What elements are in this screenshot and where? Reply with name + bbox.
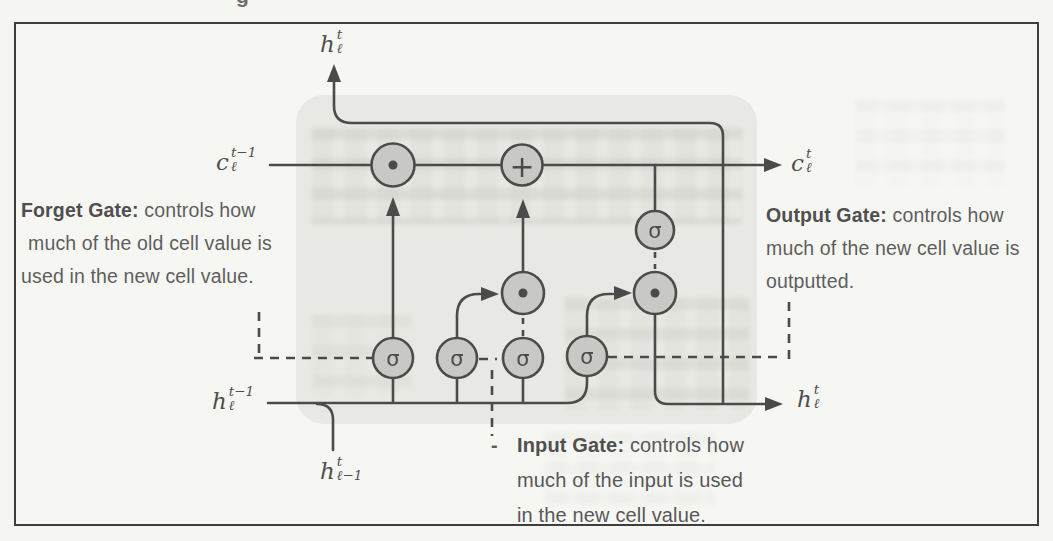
- math-sub: ℓ: [337, 41, 343, 55]
- scanned-page: g: [0, 0, 1053, 541]
- annotation-line: much of the old cell value is: [21, 227, 272, 260]
- annotation-text: controls how: [139, 199, 256, 221]
- math-sub: ℓ: [229, 398, 254, 412]
- math-base: c: [216, 149, 229, 175]
- math-sup: t−1: [229, 384, 254, 398]
- math-sup: t: [806, 146, 812, 160]
- annotation-line: Forget Gate: controls how: [21, 194, 272, 227]
- math-sub: ℓ: [806, 160, 812, 174]
- math-scripts: t ℓ: [814, 382, 820, 410]
- math-sup: t−1: [231, 145, 256, 159]
- annotation-line: Output Gate: controls how: [766, 199, 1020, 232]
- math-scripts: t ℓ−1: [337, 454, 363, 482]
- label-h-input-below: h t ℓ−1: [320, 458, 362, 484]
- label-c-out: c t ℓ: [791, 150, 812, 176]
- h-below-feed-line: [317, 404, 333, 450]
- c-out-arrowhead: [764, 158, 782, 172]
- annotation-forget-gate: Forget Gate: controls how much of the ol…: [21, 194, 272, 293]
- annotation-line: in the new cell value.: [517, 498, 744, 533]
- sigma-symbol: σ: [580, 345, 593, 369]
- math-base: h: [320, 458, 335, 484]
- plus-symbol: +: [509, 149, 534, 184]
- sigma-symbol: σ: [450, 347, 463, 371]
- math-scripts: t ℓ: [337, 27, 343, 55]
- forget-arrowhead: [386, 197, 400, 216]
- math-scripts: t ℓ: [806, 146, 812, 174]
- h-top-arrowhead: [327, 64, 341, 82]
- math-scripts: t−1 ℓ: [229, 384, 254, 412]
- label-h-out-right: h t ℓ: [797, 386, 819, 412]
- dot-product-dot: [519, 289, 528, 298]
- label-h-out-top: h t ℓ: [320, 31, 342, 57]
- add-arrowhead: [516, 199, 530, 218]
- sigma-symbol: σ: [386, 347, 399, 371]
- annotation-line: outputted.: [766, 265, 1020, 298]
- label-h-prev: h t−1 ℓ: [212, 388, 254, 414]
- sigma-symbol: σ: [648, 219, 661, 243]
- annotation-title: Forget Gate:: [21, 199, 139, 221]
- output-branch-down: [655, 314, 766, 404]
- annotation-text: controls how: [624, 434, 744, 456]
- output-mul-arrowhead: [614, 286, 632, 300]
- math-sub: ℓ: [231, 159, 256, 173]
- label-c-prev: c t−1 ℓ: [216, 149, 256, 175]
- input-annotation-dash-marker: -: [491, 434, 498, 457]
- math-sub: ℓ−1: [337, 468, 363, 482]
- math-sup: t: [814, 382, 820, 396]
- math-base: h: [212, 388, 227, 414]
- h-right-arrowhead: [765, 397, 783, 411]
- sigma4-curve: [587, 294, 613, 336]
- annotation-line: used in the new cell value.: [21, 260, 272, 293]
- dot-product-dot: [389, 161, 398, 170]
- annotation-output-gate: Output Gate: controls how much of the ne…: [766, 199, 1020, 298]
- math-sup: t: [337, 27, 343, 41]
- math-base: h: [320, 31, 335, 57]
- math-base: c: [791, 150, 804, 176]
- math-sub: ℓ: [814, 396, 820, 410]
- sigma-symbol: σ: [516, 347, 529, 371]
- math-sup: t: [337, 454, 363, 468]
- sigma2-curve: [457, 294, 481, 338]
- math-base: h: [797, 386, 812, 412]
- input-mul-arrowhead: [481, 287, 499, 301]
- dot-product-dot: [651, 289, 660, 298]
- math-scripts: t−1 ℓ: [231, 145, 256, 173]
- annotation-text: controls how: [887, 204, 1004, 226]
- annotation-line: much of the input is used: [517, 463, 744, 498]
- annotation-line: much of the new cell value is: [766, 232, 1020, 265]
- hidden-input-line: [268, 377, 587, 403]
- annotation-title: Output Gate:: [766, 204, 887, 226]
- annotation-title: Input Gate:: [517, 434, 624, 456]
- annotation-line: Input Gate: controls how: [517, 428, 744, 463]
- annotation-input-gate: Input Gate: controls how much of the inp…: [517, 428, 744, 533]
